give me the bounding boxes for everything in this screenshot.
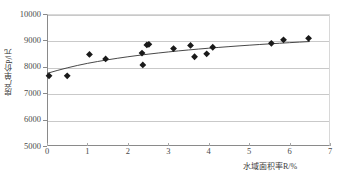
x-tick-label: 5 (242, 147, 256, 156)
x-tick-label: 4 (202, 147, 216, 156)
y-tick-mark (43, 120, 47, 121)
x-tick-label: 6 (283, 147, 297, 156)
gridline-y (48, 68, 329, 69)
y-axis-title: 房产单价P/元 (2, 18, 16, 128)
y-tick-label: 7000 (24, 89, 41, 98)
x-axis-title: 水域面积率R/% (243, 160, 297, 171)
y-tick-mark (43, 14, 47, 15)
x-tick-label: 0 (40, 147, 54, 156)
x-tick-label: 3 (161, 147, 175, 156)
y-tick-label: 8000 (24, 62, 41, 71)
y-tick-mark (43, 40, 47, 41)
gridline-y (48, 41, 329, 42)
gridline-y (48, 121, 329, 122)
gridline-y (48, 94, 329, 95)
plot-area (47, 14, 330, 146)
gridline-y (48, 15, 329, 16)
scatter-chart: 房产单价P/元 水域面积率R/% 50006000700080009000100… (0, 0, 347, 182)
x-tick-label: 2 (121, 147, 135, 156)
y-tick-mark (43, 93, 47, 94)
x-tick-label: 7 (323, 147, 337, 156)
y-tick-label: 5000 (24, 142, 41, 151)
y-tick-label: 10000 (20, 10, 41, 19)
y-tick-mark (43, 67, 47, 68)
y-tick-label: 6000 (24, 115, 41, 124)
x-tick-label: 1 (80, 147, 94, 156)
y-tick-label: 9000 (24, 36, 41, 45)
